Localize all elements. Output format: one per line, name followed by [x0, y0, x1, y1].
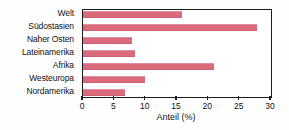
x-tick-mark	[238, 96, 239, 100]
x-axis-title: Anteil (%)	[82, 112, 270, 122]
x-tick-mark	[207, 96, 208, 100]
x-tick-label: 25	[234, 101, 243, 111]
category-axis-labels: Welt Südostasien Naher Osten Lateinameri…	[0, 10, 78, 95]
bar-row	[83, 37, 271, 44]
category-label: Welt	[0, 10, 78, 17]
category-label: Südostasien	[0, 23, 78, 30]
x-tick-mark	[113, 96, 114, 100]
bars-layer	[83, 11, 271, 96]
bar-westeuropa	[83, 76, 145, 83]
bar-row	[83, 50, 271, 57]
category-label: Lateinamerika	[0, 49, 78, 56]
bar-row	[83, 24, 271, 31]
x-tick-mark	[81, 96, 82, 100]
x-tick-label: 30	[265, 101, 274, 111]
bar-row	[83, 89, 271, 96]
x-tick-label: 20	[203, 101, 212, 111]
x-tick-label: 10	[140, 101, 149, 111]
bar-welt	[83, 11, 182, 18]
category-label: Afrika	[0, 62, 78, 69]
bar-chart-figure: Welt Südostasien Naher Osten Lateinameri…	[0, 0, 289, 130]
x-tick-mark	[175, 96, 176, 100]
bar-lateinamerika	[83, 50, 135, 57]
category-label: Nordamerika	[0, 88, 78, 95]
bar-afrika	[83, 63, 214, 70]
plot-area	[82, 9, 272, 98]
x-tick-mark	[144, 96, 145, 100]
bar-row	[83, 63, 271, 70]
bar-row	[83, 11, 271, 18]
x-tick-mark	[269, 96, 270, 100]
x-tick-label: 15	[171, 101, 180, 111]
x-tick-label: 5	[111, 101, 116, 111]
x-tick-label: 0	[80, 101, 85, 111]
category-label: Naher Osten	[0, 36, 78, 43]
bar-suedostasien	[83, 24, 257, 31]
category-label: Westeuropa	[0, 75, 78, 82]
bar-row	[83, 76, 271, 83]
bar-naher-osten	[83, 37, 132, 44]
bar-nordamerika	[83, 89, 125, 96]
